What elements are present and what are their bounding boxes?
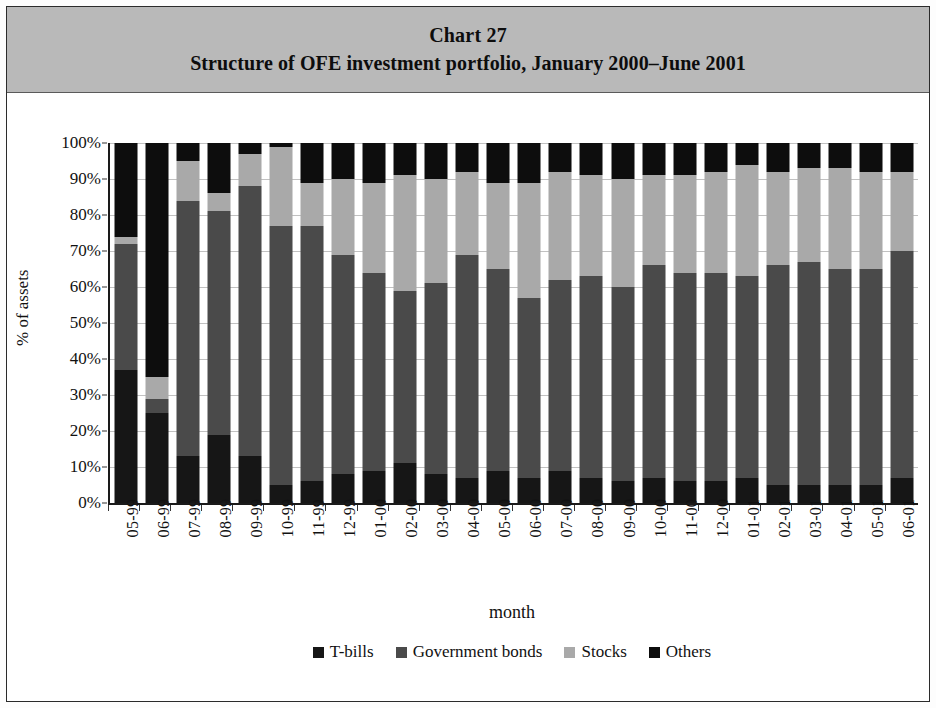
legend-item-gov[interactable]: Government bonds	[396, 642, 543, 662]
bar-segment	[176, 143, 199, 161]
bar-segment	[300, 143, 323, 183]
y-tick-mark	[102, 287, 107, 288]
legend-item-tbills[interactable]: T-bills	[313, 642, 374, 662]
bar-group	[576, 143, 607, 503]
bar-segment	[269, 226, 292, 485]
x-tick-label-slot: 10-99	[263, 514, 294, 600]
bar-segment	[860, 269, 883, 485]
x-tick-label-slot: 02-00	[388, 514, 419, 600]
y-tick-label: 10%	[70, 457, 101, 477]
stacked-bar	[114, 143, 137, 503]
bar-segment	[735, 276, 758, 478]
bar-segment	[394, 175, 417, 290]
bar-segment	[766, 172, 789, 266]
bar-segment	[425, 179, 448, 283]
bar-segment	[145, 377, 168, 399]
legend-item-others[interactable]: Others	[649, 642, 711, 662]
y-tick-label: 90%	[70, 169, 101, 189]
legend-label: T-bills	[330, 642, 374, 662]
bar-group	[856, 143, 887, 503]
bar-segment	[394, 143, 417, 175]
x-tick-label-slot: 01-00	[357, 514, 388, 600]
bar-group	[514, 143, 545, 503]
bar-group	[110, 143, 141, 503]
bar-group	[359, 143, 390, 503]
y-tick-mark	[102, 359, 107, 360]
bar-segment	[207, 435, 230, 503]
stacked-bar	[394, 143, 417, 503]
y-tick-mark	[102, 215, 107, 216]
bar-group	[390, 143, 421, 503]
stacked-bar	[828, 143, 851, 503]
bar-group	[545, 143, 576, 503]
bar-segment	[704, 143, 727, 172]
bar-segment	[487, 143, 510, 183]
bar-segment	[797, 262, 820, 485]
x-axis-tick-labels: 05-9906-9907-9908-9909-9910-9911-9912-99…	[108, 514, 916, 600]
bar-segment	[766, 143, 789, 172]
stacked-bar	[238, 143, 261, 503]
y-tick-mark	[102, 323, 107, 324]
x-tick-label-slot: 03-00	[419, 514, 450, 600]
bar-segment	[207, 143, 230, 193]
x-tick-label-slot: 12-00	[698, 514, 729, 600]
stacked-bar	[735, 143, 758, 503]
stacked-bar	[518, 143, 541, 503]
bar-segment	[114, 370, 137, 503]
stacked-bar	[269, 143, 292, 503]
y-tick-mark	[102, 431, 107, 432]
bar-group	[700, 143, 731, 503]
stacked-bar	[456, 143, 479, 503]
bar-segment	[828, 269, 851, 485]
bar-segment	[425, 143, 448, 179]
y-tick-mark	[102, 251, 107, 252]
figure-page: Chart 27 Structure of OFE investment por…	[0, 0, 936, 708]
bar-segment	[611, 179, 634, 287]
x-tick-label-slot: 04-01	[822, 514, 853, 600]
x-tick-label-slot: 04-00	[450, 514, 481, 600]
stacked-bar	[425, 143, 448, 503]
bar-segment	[673, 143, 696, 175]
stacked-bar	[891, 143, 914, 503]
stacked-bar	[300, 143, 323, 503]
bar-segment	[114, 143, 137, 237]
bar-segment	[580, 143, 603, 175]
x-tick-label-slot: 08-00	[574, 514, 605, 600]
bar-segment	[331, 255, 354, 475]
x-tick-label-slot: 05-01	[854, 514, 885, 600]
bar-segment	[425, 283, 448, 474]
legend-item-stocks[interactable]: Stocks	[564, 642, 626, 662]
stacked-bar	[549, 143, 572, 503]
bar-group	[731, 143, 762, 503]
y-tick-mark	[102, 395, 107, 396]
bar-group	[203, 143, 234, 503]
y-tick-mark	[102, 467, 107, 468]
chart-title-banner: Chart 27 Structure of OFE investment por…	[7, 7, 929, 93]
legend-swatch-icon	[313, 647, 324, 658]
bar-segment	[238, 186, 261, 456]
stacked-bar	[704, 143, 727, 503]
bar-segment	[456, 143, 479, 172]
y-tick-label: 80%	[70, 205, 101, 225]
bar-segment	[238, 143, 261, 154]
bar-segment	[207, 193, 230, 211]
bar-segment	[891, 143, 914, 172]
bar-segment	[549, 172, 572, 280]
bar-group	[327, 143, 358, 503]
bar-segment	[300, 183, 323, 226]
bar-segment	[642, 175, 665, 265]
stacked-bars	[110, 143, 918, 503]
bar-segment	[860, 143, 883, 172]
bar-segment	[176, 201, 199, 457]
y-axis-title: % of assets	[13, 270, 33, 346]
bar-segment	[145, 143, 168, 377]
bar-segment	[456, 255, 479, 478]
stacked-bar	[176, 143, 199, 503]
bar-segment	[797, 143, 820, 168]
x-tick-label-slot: 07-99	[170, 514, 201, 600]
bar-segment	[269, 147, 292, 226]
bar-group	[483, 143, 514, 503]
y-tick-label: 70%	[70, 241, 101, 261]
bar-segment	[456, 172, 479, 255]
bar-segment	[238, 154, 261, 186]
